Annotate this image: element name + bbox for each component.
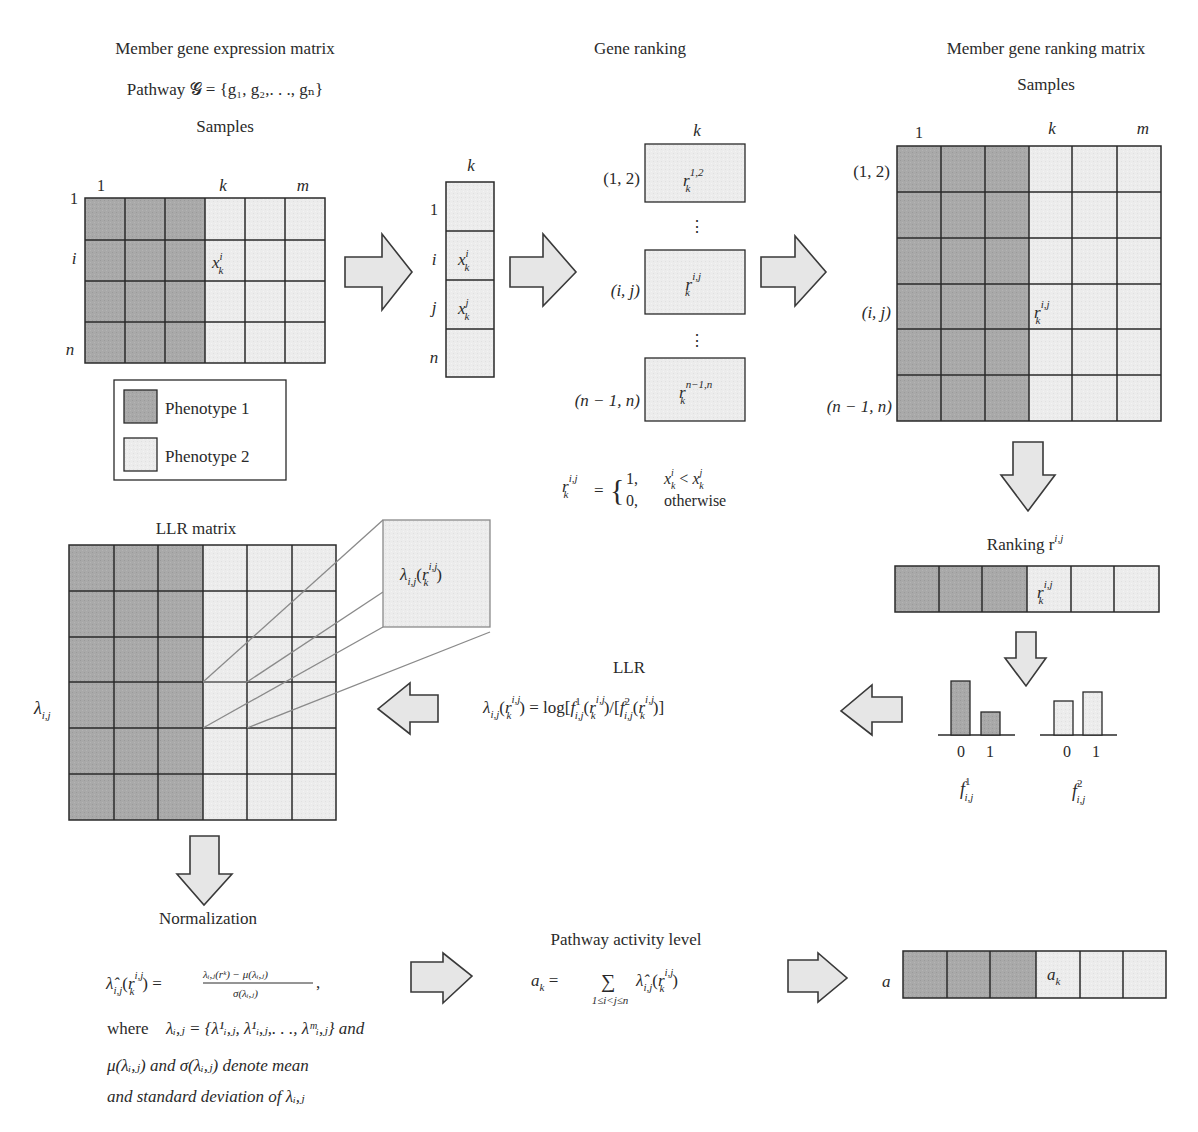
f1-bar-1 [981,712,1000,735]
rank-col-label-1: 1 [915,124,923,141]
expr-col-label-k: k [219,176,227,195]
ranking-vector-section: Ranking ri,j ri,jk [895,532,1159,612]
llr-matrix-section: LLR matrix λi,j λi,j(ri,jk) [33,519,490,820]
vec-row-label-n: n [430,348,439,367]
phenotype-2-label: Phenotype 2 [165,447,250,466]
rule-case0-value: 0, [626,492,638,509]
rule-case1-value: 1, [626,470,638,487]
normalization-section: Normalization λ̂i,j(ri,jk) = λᵢ,ⱼ(rᵏ) − … [105,909,365,1106]
normalization-numerator: λᵢ,ⱼ(rᵏ) − μ(λᵢ,ⱼ) [202,968,268,981]
normalization-comma: , [316,973,320,992]
column-vector-header: k [467,156,475,175]
gene-ranking-header: k [693,121,701,140]
activity-sum-range: 1≤i<j≤n [592,994,629,1006]
rule-brace: { [610,473,624,506]
expression-samples-label: Samples [196,117,254,136]
llr-matrix-title: LLR matrix [156,519,237,538]
llr-title: LLR [613,658,646,677]
f2-bar-0 [1054,701,1073,735]
normalization-set-def: λᵢ,ⱼ = {λ¹ᵢ,ⱼ, λ¹ᵢ,ⱼ,. . ., λᵐᵢ,ⱼ} and [165,1019,365,1038]
right-arrow-icon [761,236,826,306]
ranking-label-1-2: (1, 2) [603,169,640,188]
normalization-denominator: σ(λᵢ,ⱼ) [233,987,258,1000]
left-arrow-icon [841,685,902,735]
expression-matrix-title: Member gene expression matrix [115,39,335,58]
f1-bar-0 [951,681,970,735]
ranking-label-i-j: (i, j) [611,281,641,300]
llr-section: LLR λi,j(ri,jk) = log[f1i,j(ri,jk)/[f2i,… [482,658,664,721]
f2-tick-1: 1 [1092,743,1100,760]
llr-formula: λi,j(ri,jk) = log[f1i,j(ri,jk)/[f2i,j(ri… [482,693,664,721]
activity-lhs: ak = [531,971,558,993]
vec-row-label-i: i [432,250,437,269]
gene-ranking-section: Gene ranking k (1, 2) r1,2k ⋮ (i, j) ri,… [562,39,745,509]
ranking-rule: ri,jk = { 1, xik < xjk 0, otherwise [562,467,726,509]
ellipsis-2: ⋮ [689,332,705,349]
f1-tick-1: 1 [986,743,994,760]
rank-row-label-n-1-n: (n − 1, n) [827,397,893,416]
ranking-matrix-samples-label: Samples [1017,75,1075,94]
down-arrow-icon [1005,632,1046,686]
ranking-vector-title: Ranking ri,j [987,532,1063,554]
normalization-line3: μ(λᵢ,ⱼ) and σ(λᵢ,ⱼ) denote mean [106,1056,309,1075]
expr-col-label-1: 1 [97,177,105,194]
expr-row-label-i: i [72,249,77,268]
expr-row-label-1: 1 [70,190,78,207]
f1-label: f1i,j [960,775,973,803]
pathway-definition: Pathway 𝓖 = {g₁, g₂,. . ., gₙ} [127,80,323,99]
f1-tick-0: 0 [957,743,965,760]
vec-row-label-j: j [430,298,437,317]
down-arrow-icon [1001,442,1055,511]
distribution-f1: 0 1 f1i,j [938,681,1015,803]
right-arrow-icon [788,953,847,1002]
expr-col-label-m: m [297,176,309,195]
rule-lhs: ri,jk [562,472,578,500]
rule-equals: = [594,481,604,500]
right-arrow-icon [510,234,576,306]
normalization-line4: and standard deviation of λᵢ,ⱼ [107,1087,305,1106]
expr-row-label-n: n [66,340,75,359]
sum-symbol-icon: ∑ [601,970,615,993]
right-arrow-icon [345,234,412,310]
pathway-activity-diagram: Member gene expression matrix Pathway 𝓖 … [0,0,1198,1132]
f2-label: f2i,j [1072,777,1085,805]
vec-row-label-1: 1 [430,201,438,218]
phenotype-2-swatch [124,438,157,471]
llr-matrix-row-label: λi,j [33,698,51,721]
expression-matrix-section: Member gene expression matrix Pathway 𝓖 … [66,39,336,480]
normalization-lhs: λ̂i,j(ri,jk) = [105,969,162,997]
phenotype-1-label: Phenotype 1 [165,399,250,418]
f2-bar-1 [1083,692,1102,735]
activity-rhs: λ̂i,j(ri,jk) [635,966,678,994]
column-vector-section: k 1 i j n xik xjk [430,156,494,377]
left-arrow-icon [378,683,438,734]
rank-row-label-i-j: (i, j) [862,303,892,322]
f2-tick-0: 0 [1063,743,1071,760]
ranking-matrix-section: Member gene ranking matrix Samples 1 k m… [827,39,1161,421]
activity-vector-section: a ak [882,951,1166,998]
rule-case1-cond: xik < xjk [663,467,704,491]
ranking-matrix-title: Member gene ranking matrix [947,39,1146,58]
activity-section: Pathway activity level ak = ∑ 1≤i<j≤n λ̂… [531,930,702,1006]
down-arrow-icon [177,836,232,905]
ranking-box-i-j [645,250,745,314]
phenotype-legend: Phenotype 1 Phenotype 2 [114,380,286,480]
rank-row-label-1-2: (1, 2) [853,162,890,181]
ellipsis-1: ⋮ [689,218,705,235]
distribution-f2: 0 1 f2i,j [1040,692,1117,805]
activity-title: Pathway activity level [550,930,701,949]
phenotype-1-swatch [124,390,157,423]
normalization-where: where [107,1019,149,1038]
normalization-title: Normalization [159,909,258,928]
gene-ranking-title: Gene ranking [594,39,687,58]
expression-matrix-grid: xik [85,198,325,363]
llr-callout-text: λi,j(ri,jk) [399,560,442,588]
activity-vector-label: a [882,972,891,991]
rank-col-label-k: k [1048,119,1056,138]
ranking-label-n-1-n: (n − 1, n) [575,391,641,410]
rule-case0-cond: otherwise [664,492,726,509]
right-arrow-icon [411,953,472,1003]
rank-col-label-m: m [1137,119,1149,138]
